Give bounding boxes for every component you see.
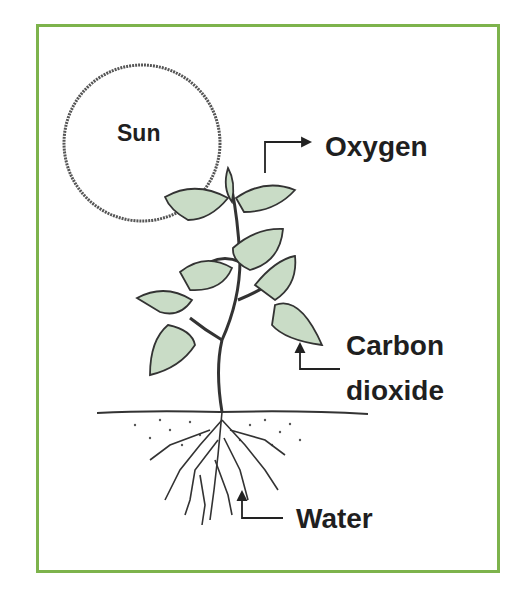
oxygen-arrow-icon [265, 138, 310, 173]
soil-dots [134, 419, 301, 446]
plant-illustration [0, 0, 532, 593]
carbon-dioxide-label-line1: Carbon [346, 332, 444, 360]
carbon-dioxide-label-line2: dioxide [346, 377, 444, 405]
oxygen-label: Oxygen [325, 133, 428, 161]
sun-label: Sun [117, 122, 160, 145]
ground-line [97, 411, 368, 414]
water-label: Water [296, 505, 373, 533]
carbon-dioxide-arrow-icon [296, 344, 340, 369]
water-arrow-icon [238, 492, 283, 518]
leaves-icon [137, 168, 322, 375]
stem-icon [190, 190, 275, 412]
